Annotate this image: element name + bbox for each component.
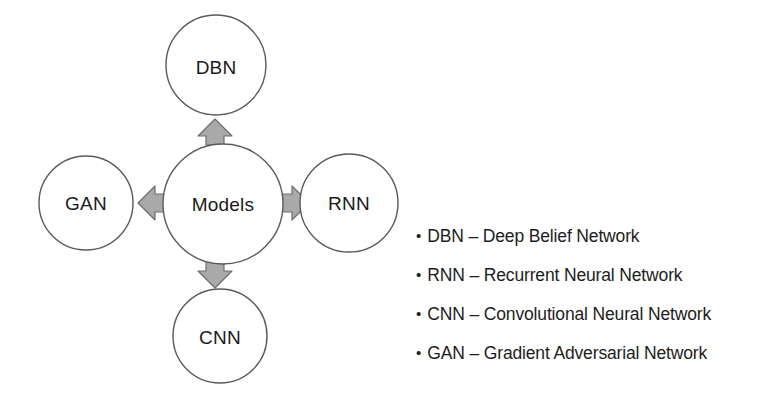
node-gan[interactable]: GAN — [39, 156, 133, 250]
arrow-down-icon — [198, 262, 232, 288]
legend-item-label: DBN – Deep Belief Network — [427, 226, 639, 247]
node-models[interactable]: Models — [163, 144, 283, 264]
node-dbn-label: DBN — [196, 57, 237, 78]
bullet-icon: • — [416, 228, 421, 243]
arrow-left-icon — [138, 186, 165, 220]
node-models-label: Models — [192, 194, 254, 215]
list-item: • DBN – Deep Belief Network — [416, 226, 776, 265]
node-gan-label: GAN — [65, 193, 107, 214]
arrow-up-icon — [198, 119, 232, 145]
abbreviation-legend: • DBN – Deep Belief Network • RNN – Recu… — [416, 226, 776, 382]
list-item: • CNN – Convolutional Neural Network — [416, 304, 776, 343]
node-rnn-label: RNN — [328, 193, 370, 214]
list-item: • GAN – Gradient Adversarial Network — [416, 343, 776, 382]
arrow-up-shape — [198, 119, 232, 145]
arrow-down-shape — [198, 262, 232, 288]
legend-item-label: CNN – Convolutional Neural Network — [427, 304, 711, 325]
bullet-icon: • — [416, 345, 421, 360]
list-item: • RNN – Recurrent Neural Network — [416, 265, 776, 304]
node-cnn-label: CNN — [199, 327, 241, 348]
legend-item-label: RNN – Recurrent Neural Network — [427, 265, 682, 286]
bullet-icon: • — [416, 306, 421, 321]
node-rnn[interactable]: RNN — [300, 154, 398, 252]
node-dbn[interactable]: DBN — [166, 15, 266, 115]
arrow-left-shape — [138, 186, 165, 220]
bullet-icon: • — [416, 267, 421, 282]
legend-item-label: GAN – Gradient Adversarial Network — [427, 343, 707, 364]
node-cnn[interactable]: CNN — [173, 289, 267, 383]
